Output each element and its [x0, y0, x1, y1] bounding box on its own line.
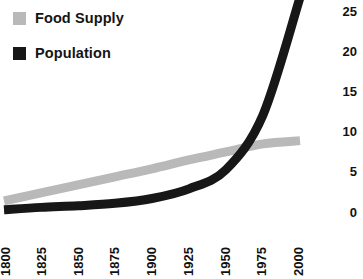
y-tick-15: 15 — [331, 85, 357, 98]
x-tick-1925-text: 1925 — [182, 247, 196, 276]
x-tick-1875-text: 1875 — [108, 247, 122, 276]
x-tick-1925: 1925 — [184, 237, 198, 277]
x-tick-1950-text: 1950 — [219, 247, 233, 276]
y-tick-10: 10 — [331, 125, 357, 138]
x-tick-1850: 1850 — [74, 237, 88, 277]
x-tick-1875: 1875 — [110, 237, 124, 277]
food-supply-line — [4, 141, 300, 201]
x-tick-2000-text: 2000 — [292, 247, 306, 276]
x-tick-1850-text: 1850 — [72, 247, 86, 276]
population-food-supply-chart: Food Supply Population 25 20 15 10 5 0 1… — [0, 0, 363, 279]
x-tick-1950: 1950 — [221, 237, 235, 277]
y-tick-0: 0 — [331, 206, 357, 219]
series-food-supply — [4, 141, 300, 201]
x-tick-1900: 1900 — [147, 237, 161, 277]
x-tick-1825: 1825 — [37, 237, 51, 277]
x-tick-1800: 1800 — [1, 237, 15, 277]
series-population — [4, 0, 300, 210]
x-tick-1975-text: 1975 — [255, 247, 269, 276]
x-tick-2000: 2000 — [294, 237, 308, 277]
x-tick-1800-text: 1800 — [0, 247, 13, 276]
x-tick-1825-text: 1825 — [35, 247, 49, 276]
y-tick-5: 5 — [331, 165, 357, 178]
population-line — [4, 0, 300, 210]
x-tick-1975: 1975 — [257, 237, 271, 277]
y-tick-25: 25 — [331, 5, 357, 18]
x-tick-1900-text: 1900 — [145, 247, 159, 276]
y-tick-20: 20 — [331, 45, 357, 58]
plot-area — [0, 0, 363, 279]
